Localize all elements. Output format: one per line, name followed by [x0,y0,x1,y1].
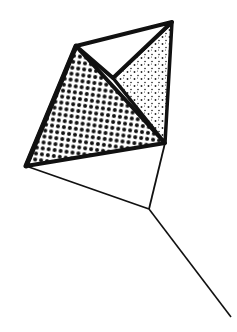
tail-string [149,209,231,317]
kite-diagram [0,0,237,332]
tail-left-line [26,166,149,209]
diagram-stage [0,0,237,332]
tail-right-line [149,143,165,209]
